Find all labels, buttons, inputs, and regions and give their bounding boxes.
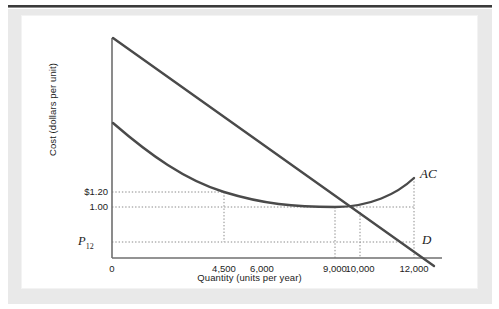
plot-area: Cost (dollars per unit) Quantity (units … [22, 16, 477, 288]
x-tick-label-10000: 10,000 [333, 263, 387, 274]
y-tick-label-1-00: 1.00 [54, 201, 108, 212]
demand-curve [113, 38, 434, 266]
x-tick-label-12000: 12,000 [387, 263, 441, 274]
top-rule-shadow [8, 7, 492, 8]
y-tick-label-p12: P12 [78, 234, 94, 251]
x-tick-label-0: 0 [100, 263, 124, 274]
y-axis-title: Cost (dollars per unit) [47, 30, 58, 190]
average-cost-curve [113, 123, 414, 207]
curve-label-d: D [422, 232, 431, 248]
figure-panel: Cost (dollars per unit) Quantity (units … [22, 16, 477, 288]
y-tick-p-letter: P [78, 234, 86, 248]
guide-lines [112, 178, 414, 258]
y-tick-p-subscript: 12 [86, 242, 94, 251]
y-tick-label-1-20: $1.20 [54, 186, 108, 197]
figure-page: Cost (dollars per unit) Quantity (units … [0, 0, 499, 309]
x-tick-label-6000: 6,000 [238, 263, 286, 274]
curve-label-ac: AC [420, 166, 437, 182]
